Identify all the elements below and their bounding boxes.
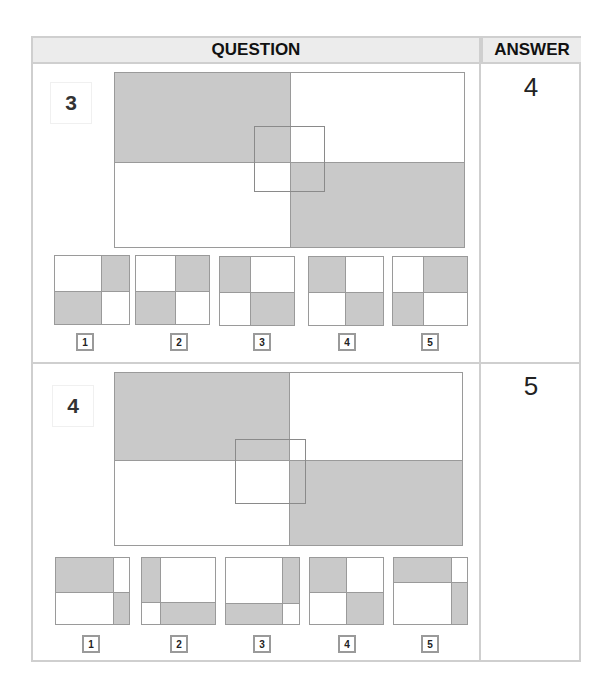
row-divider <box>33 362 579 364</box>
q3-option-label-4[interactable]: 4 <box>338 333 356 351</box>
header-question: QUESTION <box>33 38 479 64</box>
q3-option-label-5[interactable]: 5 <box>421 333 439 351</box>
q4-option-label-2[interactable]: 2 <box>170 635 188 653</box>
q3-option-3[interactable] <box>219 256 295 326</box>
q4-option-4[interactable] <box>309 557 384 625</box>
q3-option-label-2[interactable]: 2 <box>170 333 188 351</box>
q4-main-figure <box>114 372 463 546</box>
q3-main-figure <box>114 72 465 248</box>
q4-option-5[interactable] <box>393 557 468 625</box>
q3-option-4[interactable] <box>308 256 384 326</box>
q3-option-label-3[interactable]: 3 <box>253 333 271 351</box>
q4-option-label-5[interactable]: 5 <box>421 635 439 653</box>
q3-option-1[interactable] <box>54 255 130 325</box>
q3-option-2[interactable] <box>135 255 210 325</box>
answer-q3: 4 <box>481 72 581 103</box>
q4-option-label-1[interactable]: 1 <box>82 635 100 653</box>
q3-option-5[interactable] <box>392 256 468 326</box>
answer-q4: 5 <box>481 371 581 402</box>
column-divider <box>479 38 481 660</box>
question-number-4: 4 <box>52 385 94 427</box>
q3-option-label-1[interactable]: 1 <box>76 333 94 351</box>
q3-overlay-square <box>254 126 325 192</box>
q4-option-label-4[interactable]: 4 <box>338 635 356 653</box>
q4-option-2[interactable] <box>141 557 216 625</box>
q4-overlay-square <box>235 439 306 504</box>
header-answer: ANSWER <box>481 38 581 64</box>
question-number-3: 3 <box>50 82 92 124</box>
q4-option-label-3[interactable]: 3 <box>253 635 271 653</box>
q4-option-1[interactable] <box>55 557 130 625</box>
q4-option-3[interactable] <box>225 557 300 625</box>
